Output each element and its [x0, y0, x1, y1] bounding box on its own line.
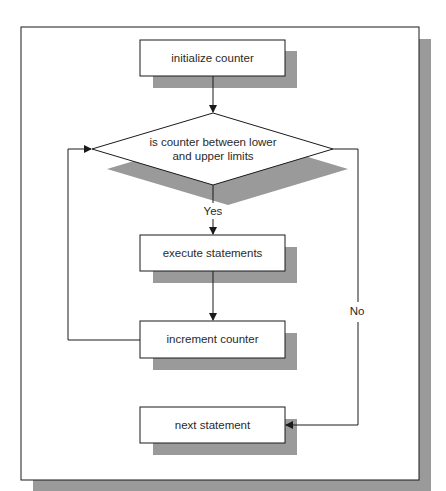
node-label: execute statements	[163, 247, 263, 259]
node-next-statement: next statement	[140, 407, 297, 455]
node-label: initialize counter	[171, 52, 254, 64]
node-label: increment counter	[166, 333, 258, 345]
edge-label-yes: Yes	[204, 205, 223, 217]
node-execute-statements: execute statements	[140, 235, 297, 283]
flowchart-canvas: initialize counter is counter between lo…	[0, 0, 446, 491]
edge-label-no: No	[350, 305, 365, 317]
node-initialize-counter: initialize counter	[140, 40, 297, 88]
decision-label-line2: and upper limits	[172, 150, 253, 162]
node-increment-counter: increment counter	[140, 321, 297, 370]
decision-label-line1: is counter between lower	[149, 136, 276, 148]
node-label: next statement	[175, 419, 251, 431]
